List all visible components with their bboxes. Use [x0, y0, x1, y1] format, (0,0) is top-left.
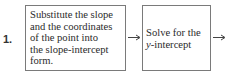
step-box-text: Solve for the y-intercept — [146, 27, 208, 50]
step-box-solve: Solve for the y-intercept — [142, 5, 211, 71]
step-box-substitute: Substitute the slope and the coordinates… — [25, 5, 126, 71]
box-line: and the coordinates — [30, 21, 123, 33]
step-number: 1. — [3, 33, 12, 45]
right-arrow-icon — [128, 33, 141, 42]
box-line: form. — [30, 55, 123, 67]
box-line: of the point into — [30, 32, 123, 44]
right-arrow-icon — [213, 33, 226, 42]
box-line: the slope-intercept — [30, 44, 123, 56]
step-box-text: Substitute the slope and the coordinates… — [30, 9, 123, 67]
box-line-y-intercept: y-intercept — [146, 39, 208, 51]
box-line-rest: -intercept — [151, 39, 192, 50]
box-line: Solve for the — [146, 27, 208, 39]
box-line: Substitute the slope — [30, 9, 123, 21]
